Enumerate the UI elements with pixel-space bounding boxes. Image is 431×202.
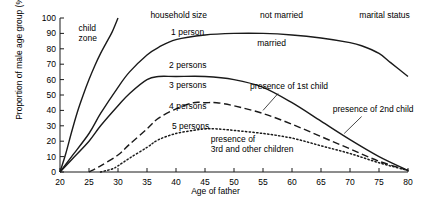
x-tick-label: 80 [403,177,412,187]
annotation-married: married [257,39,286,49]
y-tick-label: 60 [34,75,56,85]
annotation-marital-status: marital status [359,11,410,21]
chart-plot-area [0,0,431,202]
annotation-presence-2nd-child: presence of 2nd child [333,105,414,115]
x-axis-label: Age of father [0,186,431,196]
curve-1-person [60,76,408,172]
annotation-5-persons: 5 persons [172,122,209,132]
x-tick-label: 40 [171,177,180,187]
x-tick-label: 60 [287,177,296,187]
annotation-4-persons: 4 persons [169,102,206,112]
child-zone-line2: zone [79,33,97,43]
y-tick-label: 0 [34,167,56,177]
y-tick-label: 90 [34,28,56,38]
x-tick-label: 20 [55,177,64,187]
x-tick-label: 30 [113,177,122,187]
presence-3rd-line1: presence of [211,134,255,144]
y-tick-label: 70 [34,59,56,69]
x-tick-label: 35 [142,177,151,187]
x-tick-label: 55 [258,177,267,187]
x-tick-label: 50 [229,177,238,187]
y-tick-label: 10 [34,152,56,162]
y-tick-label: 100 [34,13,56,23]
annotation-not-married: not married [260,11,303,21]
chart-container: Proportion of male age group (%) Age of … [0,0,431,202]
child-zone-line1: child [79,23,96,33]
presence-3rd-line2: 3rd and other children [211,144,294,154]
x-tick-label: 45 [200,177,209,187]
annotation-presence-3rd-children: presence of3rd and other children [211,135,294,154]
y-tick-label: 30 [34,121,56,131]
y-tick-label: 50 [34,90,56,100]
y-tick-label: 20 [34,136,56,146]
annotation-child-zone: childzone [79,24,105,43]
annotation-1-person: 1 person [171,28,204,38]
annotation-3-persons: 3 persons [169,81,206,91]
y-tick-label: 80 [34,44,56,54]
annotation-presence-1st-child: presence of 1st child [250,82,328,92]
annotation-2-persons: 2 persons [169,61,206,71]
x-tick-label: 75 [374,177,383,187]
annotation-household-size: household size [150,11,207,21]
x-tick-label: 70 [345,177,354,187]
y-axis-label: Proportion of male age group (%) [14,0,24,132]
y-tick-label: 40 [34,105,56,115]
x-tick-label: 65 [316,177,325,187]
x-tick-label: 25 [84,177,93,187]
